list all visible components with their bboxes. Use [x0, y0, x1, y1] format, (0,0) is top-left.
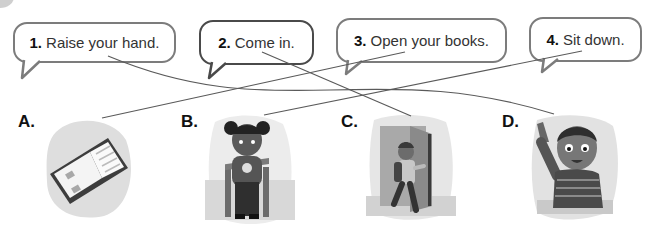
picture-b-girl-sitting[interactable]	[205, 112, 295, 227]
picture-label-d: D.	[502, 112, 519, 132]
bubble-tail-icon	[18, 58, 48, 82]
sentence-text: Open your books.	[371, 32, 489, 49]
picture-label-c: C.	[341, 112, 358, 132]
sentence-bubble-1[interactable]: 1. Raise your hand.	[13, 22, 176, 63]
picture-d-boy-raising-hand[interactable]	[527, 112, 622, 220]
bubble-tail-icon	[204, 60, 234, 82]
corner-badge	[0, 0, 14, 8]
sentence-number: 3.	[354, 32, 367, 49]
match-line-1-D[interactable]	[108, 56, 554, 114]
sentence-bubble-2[interactable]: 2. Come in.	[199, 20, 314, 65]
sentence-number: 1.	[30, 34, 43, 51]
picture-label-b: B.	[181, 112, 198, 132]
sentence-text: Sit down.	[563, 31, 625, 48]
sentence-text: Raise your hand.	[46, 34, 159, 51]
picture-c-boy-door[interactable]	[366, 112, 456, 222]
sentence-bubble-3[interactable]: 3. Open your books.	[336, 18, 507, 63]
sentence-text: Come in.	[235, 34, 295, 51]
picture-label-a: A.	[18, 112, 35, 132]
picture-a-open-book[interactable]	[44, 112, 134, 222]
sentence-number: 2.	[218, 34, 231, 51]
sentence-number: 4.	[546, 31, 559, 48]
